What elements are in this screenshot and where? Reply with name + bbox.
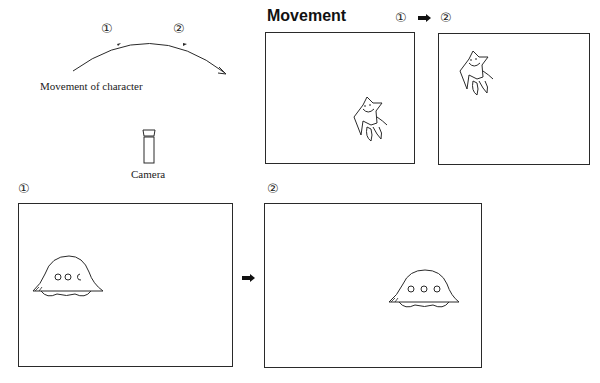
marker-1: ① bbox=[101, 21, 113, 36]
star-character-icon bbox=[351, 97, 411, 157]
ufo-frame-1 bbox=[18, 203, 233, 367]
movement-title: Movement bbox=[267, 7, 346, 25]
ufo-frame-2 bbox=[264, 203, 482, 368]
step-to: ② bbox=[440, 10, 452, 25]
marker-2: ② bbox=[173, 21, 185, 36]
ufo-icon bbox=[31, 254, 106, 299]
ufo-icon bbox=[387, 268, 462, 313]
step-from: ① bbox=[395, 10, 407, 25]
ufo-frame-1-label: ① bbox=[18, 181, 30, 196]
movement-frame-2 bbox=[438, 33, 590, 165]
trajectory-caption: Movement of character bbox=[40, 80, 143, 92]
star-character-icon bbox=[457, 51, 517, 111]
camera-icon bbox=[140, 128, 160, 168]
right-arrow-icon bbox=[242, 274, 256, 282]
right-arrow-icon bbox=[418, 14, 432, 22]
movement-frame-1 bbox=[265, 32, 415, 164]
camera-label: Camera bbox=[131, 168, 165, 180]
ufo-frame-2-label: ② bbox=[267, 181, 279, 196]
